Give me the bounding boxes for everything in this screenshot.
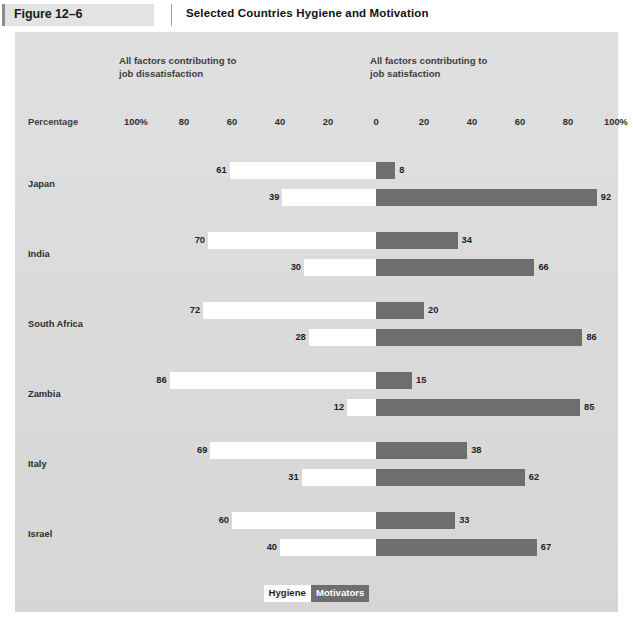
bar-value-left: 69: [197, 445, 207, 455]
bar-hygiene: [203, 302, 376, 319]
axis-tick: 20: [419, 117, 429, 127]
country-group: Zambia86151285: [15, 372, 618, 422]
bar-row: 8615: [15, 372, 618, 389]
bar-motivators: [376, 372, 412, 389]
axis-tick: 40: [467, 117, 477, 127]
bar-motivators: [376, 442, 467, 459]
bar-value-right: 38: [471, 445, 481, 455]
bar-row: 1285: [15, 399, 618, 416]
chart-legend: HygieneMotivators: [15, 579, 618, 602]
bar-value-right: 66: [538, 262, 548, 272]
bar-value-left: 72: [190, 305, 200, 315]
axis-tick: 100%: [604, 117, 628, 127]
country-label: Zambia: [28, 389, 61, 399]
country-label: India: [28, 249, 50, 259]
bar-motivators: [376, 302, 424, 319]
figure-title: Selected Countries Hygiene and Motivatio…: [186, 7, 429, 19]
country-group: South Africa72202886: [15, 302, 618, 352]
bar-value-right: 8: [399, 165, 404, 175]
bar-motivators: [376, 189, 597, 206]
figure-header: Figure 12–6 Selected Countries Hygiene a…: [0, 4, 633, 28]
axis-tick: 80: [179, 117, 189, 127]
axis-tick: 60: [515, 117, 525, 127]
bar-row: 7220: [15, 302, 618, 319]
axis-tick: 60: [227, 117, 237, 127]
caption-satisfaction: All factors contributing to job satisfac…: [370, 55, 487, 80]
axis-label-percentage: Percentage: [28, 117, 78, 127]
bar-value-left: 61: [216, 165, 226, 175]
country-label: Italy: [28, 459, 47, 469]
axis-tick: 40: [275, 117, 285, 127]
bar-hygiene: [282, 189, 376, 206]
bar-value-right: 15: [416, 375, 426, 385]
bar-value-left: 30: [291, 262, 301, 272]
bar-row: 3992: [15, 189, 618, 206]
bar-value-right: 67: [541, 542, 551, 552]
country-label: Israel: [28, 529, 52, 539]
bar-value-right: 62: [529, 472, 539, 482]
axis-tick: 20: [323, 117, 333, 127]
bar-hygiene: [232, 512, 376, 529]
bar-motivators: [376, 512, 455, 529]
axis-tick: 100%: [124, 117, 148, 127]
bar-value-left: 12: [334, 402, 344, 412]
bar-row: 2886: [15, 329, 618, 346]
bar-value-right: 20: [428, 305, 438, 315]
bar-row: 6938: [15, 442, 618, 459]
bar-hygiene: [208, 232, 376, 249]
bar-row: 6033: [15, 512, 618, 529]
country-group: India70343066: [15, 232, 618, 282]
bar-row: 3066: [15, 259, 618, 276]
bar-hygiene: [347, 399, 376, 416]
country-group: Israel60334067: [15, 512, 618, 562]
bar-value-right: 85: [584, 402, 594, 412]
bar-value-right: 34: [462, 235, 472, 245]
bar-hygiene: [230, 162, 376, 179]
bar-value-left: 60: [219, 515, 229, 525]
bar-motivators: [376, 259, 534, 276]
country-label: Japan: [28, 179, 55, 189]
bar-motivators: [376, 162, 395, 179]
bar-value-left: 70: [195, 235, 205, 245]
bar-hygiene: [280, 539, 376, 556]
bar-hygiene: [304, 259, 376, 276]
country-group: Japan6183992: [15, 162, 618, 212]
bar-value-left: 28: [295, 332, 305, 342]
chart-panel: All factors contributing to job dissatis…: [15, 32, 618, 612]
bar-row: 7034: [15, 232, 618, 249]
bar-value-left: 39: [269, 192, 279, 202]
bar-row: 3162: [15, 469, 618, 486]
bar-hygiene: [309, 329, 376, 346]
bar-motivators: [376, 469, 525, 486]
bar-value-left: 86: [156, 375, 166, 385]
header-divider: [171, 4, 172, 26]
figure-tag: Figure 12–6: [2, 4, 154, 26]
country-group: Italy69383162: [15, 442, 618, 492]
bar-motivators: [376, 329, 582, 346]
axis-tick: 0: [373, 117, 378, 127]
axis-tick: 80: [563, 117, 573, 127]
country-label: South Africa: [28, 319, 83, 329]
bar-motivators: [376, 539, 537, 556]
bar-value-right: 86: [586, 332, 596, 342]
bar-hygiene: [302, 469, 376, 486]
bar-motivators: [376, 232, 458, 249]
figure-page: Figure 12–6 Selected Countries Hygiene a…: [0, 0, 633, 632]
bar-row: 618: [15, 162, 618, 179]
bar-value-right: 33: [459, 515, 469, 525]
bar-value-right: 92: [601, 192, 611, 202]
bar-value-left: 40: [267, 542, 277, 552]
bar-value-left: 31: [288, 472, 298, 482]
legend-item-hygiene: Hygiene: [264, 585, 311, 602]
legend-item-motivators: Motivators: [311, 585, 370, 602]
bar-motivators: [376, 399, 580, 416]
bar-row: 4067: [15, 539, 618, 556]
figure-number: Figure 12–6: [14, 7, 82, 21]
bar-hygiene: [210, 442, 376, 459]
bar-hygiene: [170, 372, 376, 389]
caption-dissatisfaction: All factors contributing to job dissatis…: [119, 55, 236, 80]
